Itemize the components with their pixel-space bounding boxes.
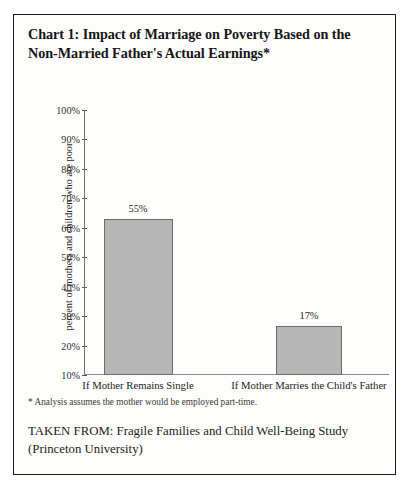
source-line-1: TAKEN FROM: Fragile Families and Child W… — [28, 424, 348, 438]
y-tick-label: 80% — [42, 164, 80, 175]
bar-value-label: 55% — [128, 203, 147, 214]
y-tick-label: 10% — [42, 370, 80, 381]
chart-figure-card: Chart 1: Impact of Marriage on Poverty B… — [13, 14, 396, 475]
y-axis-line — [84, 110, 85, 375]
y-tick-label: 30% — [42, 311, 80, 322]
y-tick-label: 20% — [42, 341, 80, 352]
y-tick-label: 70% — [42, 193, 80, 204]
chart-footnote: * Analysis assumes the mother would be e… — [28, 397, 380, 407]
bar-if-mother-remains-single — [104, 219, 173, 375]
y-tick-label: 50% — [42, 252, 80, 263]
y-tick-label: 40% — [42, 282, 80, 293]
y-tick-label: 90% — [42, 134, 80, 145]
x-category-label: If Mother Marries the Child's Father — [231, 379, 386, 391]
source-line-2: (Princeton University) — [28, 442, 143, 456]
y-tick-label: 60% — [42, 223, 80, 234]
y-tick-label: 100% — [42, 105, 80, 116]
y-tick-mark — [82, 375, 87, 376]
bar-value-label: 17% — [299, 310, 318, 321]
chart-source-note: TAKEN FROM: Fragile Families and Child W… — [28, 423, 380, 458]
x-category-label: If Mother Remains Single — [82, 379, 193, 391]
bar-if-mother-marries-childs-father — [276, 326, 342, 375]
